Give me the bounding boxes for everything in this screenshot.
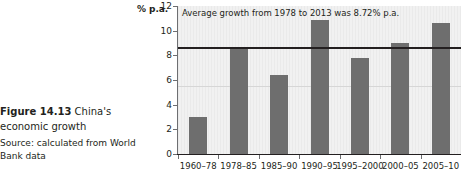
x-axis-label-1990-95: 1990–95 xyxy=(301,161,338,171)
bar-1990-95 xyxy=(311,20,329,154)
figure-container: Figure 14.13 China's economic growth Sou… xyxy=(0,0,461,176)
y-tick-label-6: 6 xyxy=(120,75,172,85)
x-axis-label-1960-78: 1960–78 xyxy=(180,161,217,171)
x-tick-mark-2 xyxy=(259,155,260,159)
x-tick-mark-1 xyxy=(218,155,219,159)
x-axis-label-2000-05: 2000–05 xyxy=(382,161,419,171)
average-growth-reference-line xyxy=(178,47,461,49)
x-tick-mark-0 xyxy=(178,155,179,159)
bar-1995-2000 xyxy=(351,58,369,154)
bar-1978-85 xyxy=(230,49,248,154)
bar-2005-10 xyxy=(432,23,450,154)
average-growth-annotation: Average growth from 1978 to 2013 was 8.7… xyxy=(182,8,399,19)
bar-1985-90 xyxy=(270,75,288,154)
x-axis-label-1985-90: 1985–90 xyxy=(261,161,298,171)
plot-area: Average growth from 1978 to 2013 was 8.7… xyxy=(178,6,461,154)
x-tick-mark-5 xyxy=(380,155,381,159)
bar-1960-78 xyxy=(189,117,207,154)
x-tick-mark-3 xyxy=(299,155,300,159)
bar-chart: % p.a. 12 10 8 6 4 2 0 xyxy=(120,0,461,176)
x-axis-label-1978-85: 1978–85 xyxy=(220,161,257,171)
x-axis-label-1995-2000: 1995–2000 xyxy=(336,161,384,171)
y-tick-label-12: 12 xyxy=(120,1,172,11)
y-tick-label-4: 4 xyxy=(120,100,172,110)
x-axis-line xyxy=(177,154,461,155)
figure-number: Figure 14.13 xyxy=(0,106,71,117)
y-tick-label-10: 10 xyxy=(120,26,172,36)
x-axis-label-2005-10: 2005–10 xyxy=(422,161,459,171)
y-tick-label-0: 0 xyxy=(120,149,172,159)
bar-2000-05 xyxy=(391,43,409,154)
y-tick-label-2: 2 xyxy=(120,124,172,134)
x-tick-mark-6 xyxy=(421,155,422,159)
y-tick-label-8: 8 xyxy=(120,50,172,60)
x-tick-mark-4 xyxy=(340,155,341,159)
